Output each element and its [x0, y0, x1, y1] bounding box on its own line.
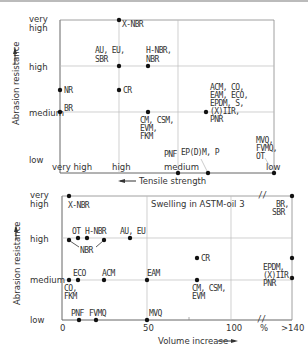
- label-fvmq: FVMQ: [89, 309, 107, 318]
- bottom-ytick-very-high: high: [30, 199, 49, 209]
- label-xnbr: X-NBR: [122, 20, 144, 29]
- point-hnbr: [85, 236, 89, 240]
- bottom-ytick-medium: medium: [30, 275, 65, 285]
- point-co-fkm: [67, 278, 71, 282]
- nbr-connector-right: [96, 241, 103, 247]
- label-hnbr-1: H-NBR,: [146, 46, 171, 55]
- point-eco: [76, 278, 80, 282]
- label-hnbr-2: NBR: [146, 55, 159, 64]
- label-pnf: PNF: [71, 309, 84, 318]
- bottom-title: Swelling in ASTM-oil 3: [151, 199, 245, 209]
- point-acm: [102, 278, 106, 282]
- point-hnbr-nbr: [146, 64, 150, 68]
- top-xtick-high: high: [112, 162, 131, 172]
- point-eam: [145, 278, 149, 282]
- leader-epdm: [201, 159, 207, 171]
- bottom-ylabel: Abrasion resistance: [12, 221, 22, 305]
- label-epdm-p: EP(D)M, P: [181, 148, 220, 157]
- label-hnbr: H-NBR: [85, 227, 107, 236]
- top-ytick-high: high: [29, 62, 48, 72]
- point-cr: [195, 256, 199, 260]
- label-fkm: FKM: [64, 292, 77, 301]
- label-nbr: NBR: [80, 246, 93, 255]
- top-chart: very high high medium low very high high…: [11, 14, 281, 186]
- label-evm: EVM: [192, 292, 205, 301]
- point-cm-csm-evm: [195, 278, 199, 282]
- bottom-xlabel: Volume increase: [158, 336, 228, 346]
- point-au-eu: [128, 236, 132, 240]
- label-ot: OT: [72, 227, 81, 236]
- label-cr: CR: [201, 254, 210, 263]
- label-br-sbr-2: SBR: [272, 208, 285, 217]
- point-nr: [58, 88, 62, 92]
- top-ytick-low: low: [29, 155, 44, 165]
- label-eam: EAM: [147, 269, 160, 278]
- point-pnf: [176, 171, 180, 175]
- bottom-points: [67, 194, 294, 322]
- label-eco: ECO: [73, 269, 86, 278]
- nbr-connector-left: [70, 241, 79, 247]
- bottom-ytick-low: low: [30, 315, 45, 325]
- label-acm-5: PNR: [210, 115, 223, 124]
- charts-canvas: very high high medium low very high high…: [0, 0, 308, 351]
- top-xlabel-arrowhead-icon: [118, 179, 125, 183]
- top-ytick-very-high: high: [29, 23, 48, 33]
- label-au-eu: AU, EU: [120, 227, 146, 236]
- point-ot: [76, 236, 80, 240]
- point-cm-csm: [146, 110, 150, 114]
- top-xtick-medium: medium: [164, 162, 199, 172]
- bottom-xtick-50: 50: [143, 323, 154, 333]
- bottom-ytick-high: high: [30, 234, 49, 244]
- bottom-xtick-unit: %: [260, 323, 268, 333]
- point-right-mid: [290, 256, 294, 260]
- point-fvmq: [94, 318, 98, 322]
- bottom-xlabel-arrowhead-icon: [231, 339, 238, 343]
- point-xnbr: [117, 18, 121, 22]
- bottom-grid: [62, 196, 292, 320]
- bottom-xtick-140: >140: [281, 323, 304, 333]
- point-epdm-p: [206, 171, 210, 175]
- label-au-2: SBR: [95, 55, 108, 64]
- label-pnr: PNR: [263, 279, 276, 288]
- label-cr: CR: [123, 86, 132, 95]
- point-cr: [117, 88, 121, 92]
- label-mvq-3: OT: [256, 152, 265, 161]
- point-au-eu-sbr: [117, 64, 121, 68]
- point-xnbr: [67, 194, 71, 198]
- point-br: [58, 110, 62, 114]
- point-pnf: [77, 318, 81, 322]
- label-au-1: AU, EU,: [95, 46, 125, 55]
- label-cm-3: FKM: [140, 132, 153, 141]
- point-mvq: [145, 318, 149, 322]
- label-pnf: PNF: [164, 150, 177, 159]
- top-xtick-very-high: very high: [52, 162, 92, 172]
- axis-break-top-icon: //: [258, 191, 267, 200]
- point-acm-group: [204, 110, 208, 114]
- label-nr: NR: [64, 86, 73, 95]
- top-xlabel: Tensile strength: [138, 176, 206, 186]
- label-br: BR: [64, 104, 73, 113]
- point-mvq-group: [272, 171, 276, 175]
- bottom-xtick-100: 100: [226, 323, 242, 333]
- point-br-sbr: [290, 194, 294, 198]
- label-xnbr: X-NBR: [68, 201, 90, 210]
- label-mvq: MVQ: [149, 309, 162, 318]
- bottom-chart: // // very high high medium low 0 50 100…: [12, 190, 304, 346]
- label-acm: ACM: [102, 269, 115, 278]
- bottom-xtick-0: 0: [60, 323, 65, 333]
